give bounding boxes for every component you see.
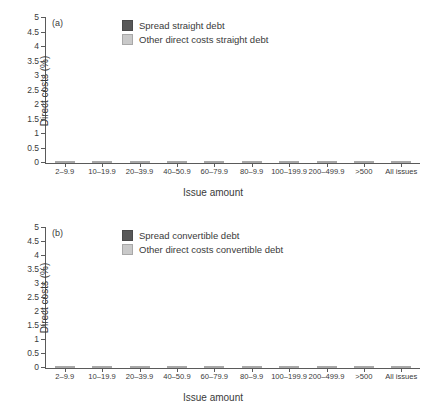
x-axis-tick-label: 20–39.9 [126, 167, 153, 176]
panel-b: (b) Spread convertible debt Other direct… [0, 214, 426, 405]
x-axis-tick-label: 200–499.9 [309, 167, 345, 176]
y-axis-tick-label: 2.5 [9, 85, 39, 96]
plot-area-a: Direct costs (%) 2–9.910–19.920–39.940–5… [45, 18, 420, 164]
bar-segment-other[interactable] [55, 161, 75, 163]
y-axis-tick: 4 [41, 46, 46, 47]
y-axis-tick: 3 [41, 75, 46, 76]
figure-direct-costs: (a) Spread straight debt Other direct co… [0, 0, 426, 405]
bars-b: 2–9.910–19.920–39.940–50.960–79.980–9.91… [46, 228, 420, 368]
y-axis-tick-label: 1.5 [9, 114, 39, 125]
y-axis-tick: 0 [41, 162, 46, 163]
x-axis-tick-label: 80–9.9 [240, 372, 263, 381]
y-axis-tick-label: 0.5 [9, 348, 39, 359]
x-axis-tick-label: All issues [385, 372, 417, 381]
y-axis-tick-label: 5 [9, 12, 39, 23]
y-axis-tick-label: 1 [9, 128, 39, 139]
x-axis-tick-label: 2–9.9 [55, 167, 74, 176]
y-axis-tick-label: 4 [9, 250, 39, 261]
y-axis-tick-label: 3.5 [9, 264, 39, 275]
x-axis-tick-label: 60–79.9 [201, 372, 228, 381]
bar-segment-other[interactable] [167, 161, 187, 163]
bar-segment-other[interactable] [354, 366, 374, 368]
x-axis-tick-label: 2–9.9 [55, 372, 74, 381]
y-axis-tick: 4 [41, 255, 46, 256]
x-axis-tick-label: 100–199.9 [271, 372, 307, 381]
y-axis-tick-label: 5 [9, 222, 39, 233]
x-axis-tick-label: 100–199.9 [271, 167, 307, 176]
panel-a: (a) Spread straight debt Other direct co… [0, 4, 426, 200]
x-axis-tick-label: 80–9.9 [240, 167, 263, 176]
y-axis-tick: 1 [41, 133, 46, 134]
bar-segment-other[interactable] [92, 161, 112, 163]
x-axis-title-b: Issue amount [0, 392, 426, 403]
y-axis-tick: 1 [41, 339, 46, 340]
y-axis-tick: 3.5 [41, 269, 46, 270]
bar-segment-other[interactable] [204, 366, 224, 368]
y-axis-tick: 2 [41, 104, 46, 105]
y-axis-tick-label: 1.5 [9, 320, 39, 331]
y-axis-tick: 3.5 [41, 61, 46, 62]
bar-segment-other[interactable] [242, 366, 262, 368]
y-axis-tick: 2.5 [41, 297, 46, 298]
y-axis-tick-label: 3 [9, 70, 39, 81]
bar-segment-other[interactable] [242, 161, 262, 163]
y-axis-tick-label: 4.5 [9, 27, 39, 38]
y-axis-tick: 5 [41, 17, 46, 18]
y-axis-tick: 5 [41, 227, 46, 228]
y-axis-tick: 0.5 [41, 148, 46, 149]
y-axis-tick: 1.5 [41, 325, 46, 326]
bar-segment-other[interactable] [204, 161, 224, 163]
y-axis-tick-label: 4.5 [9, 236, 39, 247]
y-axis-tick: 4.5 [41, 241, 46, 242]
y-axis-tick-label: 0 [9, 157, 39, 168]
x-axis-tick-label: 40–50.9 [163, 167, 190, 176]
y-axis-tick-label: 2 [9, 306, 39, 317]
bar-segment-other[interactable] [130, 366, 150, 368]
y-axis-tick-label: 3 [9, 278, 39, 289]
bar-segment-other[interactable] [317, 161, 337, 163]
x-axis-tick-label: All issues [385, 167, 417, 176]
x-axis-tick-label: 60–79.9 [201, 167, 228, 176]
x-axis-tick-label: 10–19.9 [88, 167, 115, 176]
bar-segment-other[interactable] [130, 161, 150, 163]
y-axis-tick-label: 2.5 [9, 292, 39, 303]
bar-segment-other[interactable] [279, 161, 299, 163]
y-axis-tick: 0.5 [41, 353, 46, 354]
y-axis-tick: 0 [41, 367, 46, 368]
x-axis-tick-label: 200–499.9 [309, 372, 345, 381]
bar-segment-other[interactable] [354, 161, 374, 163]
y-axis-tick-label: 0 [9, 362, 39, 373]
y-axis-tick-label: 2 [9, 99, 39, 110]
y-axis-tick: 4.5 [41, 32, 46, 33]
x-axis-tick-label: >500 [355, 167, 372, 176]
bar-segment-other[interactable] [279, 366, 299, 368]
y-axis-tick: 3 [41, 283, 46, 284]
bar-segment-other[interactable] [167, 366, 187, 368]
bar-segment-other[interactable] [391, 366, 411, 368]
y-axis-tick-label: 3.5 [9, 56, 39, 67]
y-axis-tick: 2 [41, 311, 46, 312]
bars-a: 2–9.910–19.920–39.940–50.960–79.980–9.91… [46, 18, 420, 163]
bar-segment-other[interactable] [55, 366, 75, 368]
x-axis-title-a: Issue amount [0, 187, 426, 198]
x-axis-tick-label: >500 [355, 372, 372, 381]
y-axis-tick: 1.5 [41, 119, 46, 120]
y-axis-tick-label: 4 [9, 41, 39, 52]
bar-segment-other[interactable] [391, 161, 411, 163]
bar-segment-other[interactable] [92, 366, 112, 368]
y-axis-tick: 2.5 [41, 90, 46, 91]
y-axis-tick-label: 0.5 [9, 143, 39, 154]
x-axis-tick-label: 20–39.9 [126, 372, 153, 381]
x-axis-tick-label: 10–19.9 [88, 372, 115, 381]
bar-segment-other[interactable] [317, 366, 337, 368]
x-axis-tick-label: 40–50.9 [163, 372, 190, 381]
y-axis-tick-label: 1 [9, 334, 39, 345]
plot-area-b: Direct costs (%) 2–9.910–19.920–39.940–5… [45, 228, 420, 369]
